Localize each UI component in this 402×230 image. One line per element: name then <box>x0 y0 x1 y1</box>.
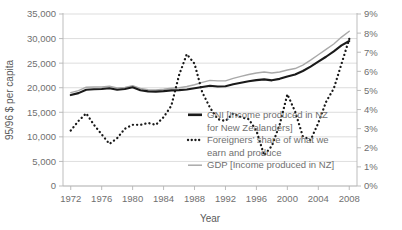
chart-container: 05,00010,00015,00020,00025,00030,00035,0… <box>0 0 402 230</box>
x-tick-label: 1976 <box>91 193 112 204</box>
chart-legend: GNI [Income produced in NZfor New Zealan… <box>188 109 334 170</box>
x-tick-label: 1980 <box>122 193 143 204</box>
y-tick-label-right: 6% <box>364 66 378 77</box>
y-tick-label-left: 0 <box>51 180 56 191</box>
series-line <box>71 31 350 92</box>
legend-label: GNI [Income produced in NZ <box>207 109 328 120</box>
y-tick-label-left: 15,000 <box>27 107 56 118</box>
y-tick-label-left: 30,000 <box>27 33 56 44</box>
y-tick-label-left: 5,000 <box>32 156 56 167</box>
x-axis: 1972197619801984198819921996200020042008 <box>60 186 360 204</box>
y-axis-title: 95/96 $ per capita <box>4 60 15 140</box>
legend-label-cont: earn and produce <box>207 147 281 158</box>
legend-label-cont: for New Zealanders] <box>207 122 293 133</box>
x-tick-label: 1992 <box>215 193 236 204</box>
y-tick-label-left: 10,000 <box>27 131 56 142</box>
x-tick-label: 1972 <box>60 193 81 204</box>
y-tick-label-right: 3% <box>364 123 378 134</box>
legend-label: Foreigners’ share of what we <box>207 134 329 145</box>
y-tick-label-left: 20,000 <box>27 82 56 93</box>
x-tick-label: 2004 <box>308 193 329 204</box>
legend-label: GDP [Income produced in NZ] <box>207 159 334 170</box>
y-tick-label-right: 8% <box>364 28 378 39</box>
x-tick-label: 1996 <box>246 193 267 204</box>
y-tick-label-right: 4% <box>364 104 378 115</box>
y-tick-label-right: 0% <box>364 180 378 191</box>
y-tick-label-right: 1% <box>364 161 378 172</box>
x-tick-label: 2000 <box>277 193 298 204</box>
x-tick-label: 1988 <box>184 193 205 204</box>
y-tick-label-left: 25,000 <box>27 58 56 69</box>
y-tick-label-right: 5% <box>364 85 378 96</box>
y-tick-label-right: 7% <box>364 47 378 58</box>
y-tick-label-right: 9% <box>364 8 378 19</box>
x-tick-label: 1984 <box>153 193 174 204</box>
y-axis-right: 0%1%2%3%4%5%6%7%8%9% <box>357 8 378 191</box>
y-tick-label-left: 35,000 <box>27 8 56 19</box>
x-tick-label: 2008 <box>339 193 360 204</box>
line-chart: 05,00010,00015,00020,00025,00030,00035,0… <box>0 0 402 230</box>
x-axis-title: Year <box>200 213 221 224</box>
y-axis-left: 05,00010,00015,00020,00025,00030,00035,0… <box>27 8 63 191</box>
y-tick-label-right: 2% <box>364 142 378 153</box>
